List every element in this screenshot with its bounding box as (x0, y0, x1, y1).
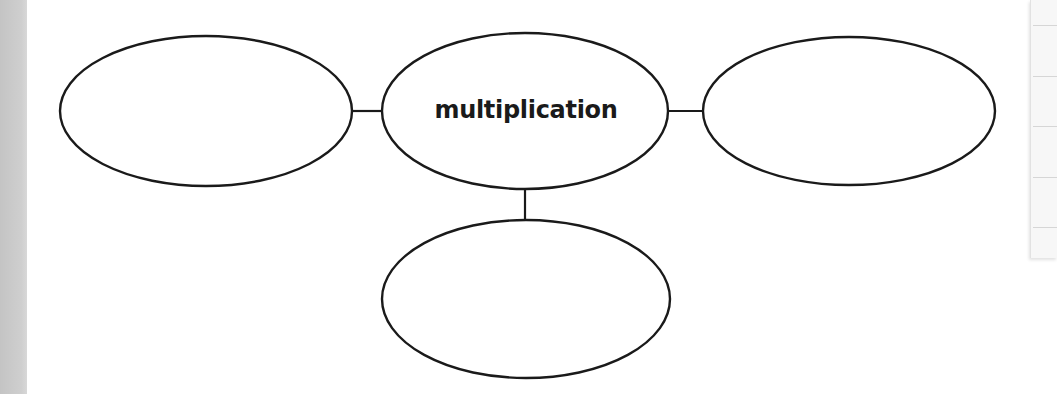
node-bottom[interactable] (382, 220, 670, 378)
center-node-label: multiplication (383, 96, 669, 124)
node-right[interactable] (703, 37, 995, 185)
node-left[interactable] (60, 36, 352, 186)
